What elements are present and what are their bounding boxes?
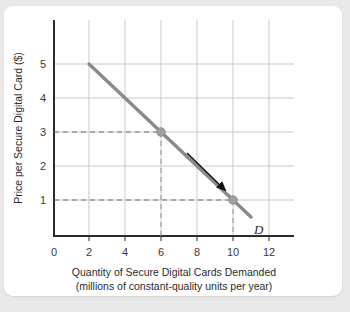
demand-curve-label: D: [253, 222, 264, 237]
x-axis-title-line2: (millions of constant-quality units per …: [76, 280, 273, 292]
ytick-label-5: 5: [40, 58, 46, 70]
x-axis-title-line1: Quantity of Secure Digital Cards Demande…: [72, 266, 276, 278]
ytick-label-3: 3: [40, 126, 46, 138]
ytick-label-1: 1: [40, 194, 46, 206]
figure-card: 5 4 3 2 1 0 2 4 6 8 10 12 D Price per Se…: [4, 6, 342, 296]
xtick-label-10: 10: [227, 246, 239, 258]
marker-point-a: [157, 128, 165, 136]
ytick-label-4: 4: [40, 92, 46, 104]
x-axis-tick-labels: 0 2 4 6 8 10 12: [51, 246, 275, 258]
movement-arrow-line: [187, 153, 225, 190]
demand-curve-chart: 5 4 3 2 1 0 2 4 6 8 10 12 D Price per Se…: [4, 6, 342, 296]
demand-curve-line: [89, 64, 251, 217]
y-axis-tick-labels: 5 4 3 2 1: [40, 58, 46, 206]
y-axis-title: Price per Secure Digital Card ($): [12, 52, 24, 204]
xtick-label-0: 0: [51, 246, 57, 258]
xtick-label-4: 4: [122, 246, 128, 258]
movement-arrow: [187, 153, 225, 190]
marker-point-b: [229, 196, 237, 204]
vertical-gridlines: [89, 20, 269, 235]
xtick-label-8: 8: [194, 246, 200, 258]
ytick-label-2: 2: [40, 160, 46, 172]
guide-lines: [54, 132, 233, 236]
xtick-label-2: 2: [86, 246, 92, 258]
xtick-label-6: 6: [158, 246, 164, 258]
xtick-label-12: 12: [263, 246, 275, 258]
